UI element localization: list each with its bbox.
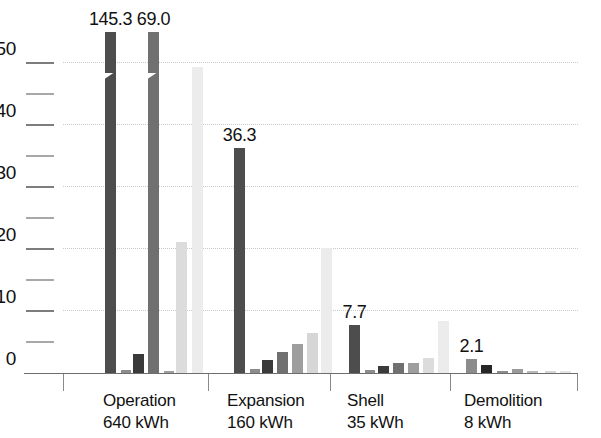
- bar-group-expansion: 36.3: [208, 8, 330, 373]
- y-tick-major-10: [26, 310, 54, 312]
- y-tick-minor-45: [26, 93, 54, 95]
- bar-shell-series-7[interactable]: [438, 321, 449, 373]
- bar-group-demolition: 2.1: [450, 8, 578, 373]
- x-axis-separator-3: [450, 374, 451, 391]
- bar-label-expansion-series-1: 36.3: [223, 126, 256, 144]
- y-axis-label-10: 10: [0, 287, 16, 306]
- bar-label-demolition-series-1: 2.1: [460, 337, 484, 355]
- bar-operation-series-7[interactable]: [192, 67, 203, 373]
- y-tick-minor-15: [26, 279, 54, 281]
- bar-demolition-series-1[interactable]: 2.1: [466, 359, 477, 373]
- bar-label-operation-series-1: 145.3: [89, 10, 132, 28]
- bar-shell-series-1[interactable]: 7.7: [349, 325, 360, 373]
- plot-area: 145.3 69.0 36.3: [63, 8, 578, 373]
- y-tick-major-40: [26, 124, 54, 126]
- category-label-demolition: Demolition 8 kWh: [464, 390, 542, 434]
- y-tick-major-30: [26, 186, 54, 188]
- y-tick-minor-35: [26, 155, 54, 157]
- x-axis-separator-1: [208, 374, 209, 391]
- x-axis-separator-4: [577, 374, 578, 391]
- bar-shell-series-5[interactable]: [408, 363, 419, 373]
- bar-label-operation-series-4: 69.0: [137, 10, 170, 28]
- category-energy-expansion: 160 kWh: [227, 412, 305, 434]
- bar-operation-series-4[interactable]: 69.0: [148, 32, 159, 373]
- category-energy-shell: 35 kWh: [347, 412, 403, 434]
- bar-shell-series-6[interactable]: [423, 358, 434, 373]
- bar-expansion-series-3[interactable]: [262, 360, 273, 373]
- y-axis-label-20: 20: [0, 225, 16, 244]
- x-axis-separator-2: [330, 374, 331, 391]
- y-axis-label-30: 30: [0, 163, 16, 182]
- bar-group-shell: 7.7: [330, 8, 450, 373]
- bar-expansion-series-1[interactable]: 36.3: [234, 148, 245, 373]
- category-energy-operation: 640 kWh: [103, 412, 176, 434]
- category-name-demolition: Demolition: [464, 391, 542, 410]
- bar-expansion-series-4[interactable]: [277, 352, 288, 373]
- chart-container: 50 40 30 20 10 0 145.3 69.0: [0, 0, 601, 438]
- category-energy-demolition: 8 kWh: [464, 412, 542, 434]
- category-name-shell: Shell: [347, 391, 384, 410]
- y-tick-minor-25: [26, 217, 54, 219]
- axis-break-mark: [103, 73, 118, 88]
- category-label-shell: Shell 35 kWh: [347, 390, 403, 434]
- bar-demolition-series-2[interactable]: [481, 365, 492, 373]
- bar-expansion-series-6[interactable]: [307, 333, 318, 373]
- bar-group-operation: 145.3 69.0: [63, 8, 208, 373]
- x-axis-line: [24, 373, 578, 374]
- category-name-expansion: Expansion: [227, 391, 305, 410]
- category-name-operation: Operation: [103, 391, 176, 410]
- y-axis: 50 40 30 20 10 0: [0, 0, 63, 380]
- bar-shell-series-3[interactable]: [378, 366, 389, 373]
- bar-label-shell-series-1: 7.7: [343, 303, 367, 321]
- bar-shell-series-4[interactable]: [393, 363, 404, 373]
- y-tick-minor-5: [26, 341, 54, 343]
- y-axis-label-50: 50: [0, 39, 16, 58]
- category-label-expansion: Expansion 160 kWh: [227, 390, 305, 434]
- bar-expansion-series-5[interactable]: [292, 344, 303, 373]
- y-axis-label-0: 0: [0, 349, 16, 368]
- category-label-operation: Operation 640 kWh: [103, 390, 176, 434]
- bar-operation-series-6[interactable]: [176, 242, 187, 373]
- axis-break-mark: [146, 73, 161, 88]
- y-axis-label-40: 40: [0, 101, 16, 120]
- bar-operation-series-3[interactable]: [133, 354, 144, 373]
- bar-operation-series-1[interactable]: 145.3: [105, 32, 116, 373]
- y-tick-major-50: [26, 62, 54, 64]
- x-axis-separator-0: [63, 374, 64, 391]
- y-tick-major-20: [26, 248, 54, 250]
